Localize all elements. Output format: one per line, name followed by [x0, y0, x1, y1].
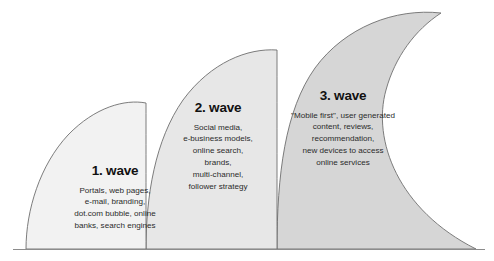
wave-3-heading: 3. wave — [268, 88, 418, 104]
wave-2-heading: 2. wave — [158, 100, 278, 116]
wave-diagram: 1. wave Portals, web pages, e-mail, bran… — [0, 0, 494, 261]
wave-2-description: Social media, e-business models, online … — [158, 122, 278, 194]
wave-2-label: 2. wave Social media, e-business models,… — [158, 100, 278, 193]
wave-3-description: "Mobile first", user generated content, … — [268, 110, 418, 170]
wave-3-label: 3. wave "Mobile first", user generated c… — [268, 88, 418, 169]
